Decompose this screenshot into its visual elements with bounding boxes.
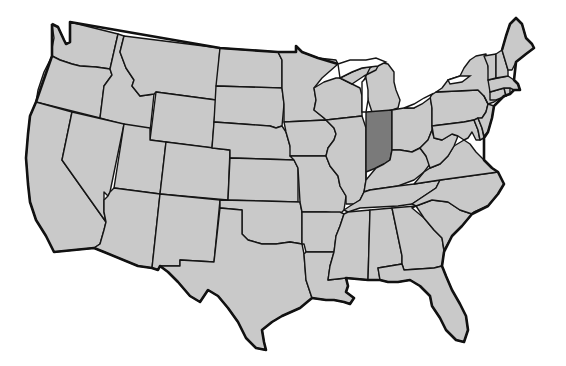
state-kansas[interactable] (228, 158, 298, 202)
state-wyoming[interactable] (150, 92, 216, 148)
state-north-dakota[interactable] (216, 48, 282, 88)
us-map: United States map with Indiana highlight… (0, 0, 566, 366)
state-colorado[interactable] (160, 142, 230, 200)
state-wisconsin[interactable] (314, 78, 362, 120)
state-florida[interactable] (378, 264, 468, 342)
lake-michigan (362, 78, 368, 112)
state-maine[interactable] (502, 18, 534, 70)
state-south-dakota[interactable] (214, 86, 284, 128)
state-new-mexico[interactable] (152, 194, 220, 270)
map-canvas (0, 0, 566, 366)
state-arizona[interactable] (94, 188, 160, 268)
